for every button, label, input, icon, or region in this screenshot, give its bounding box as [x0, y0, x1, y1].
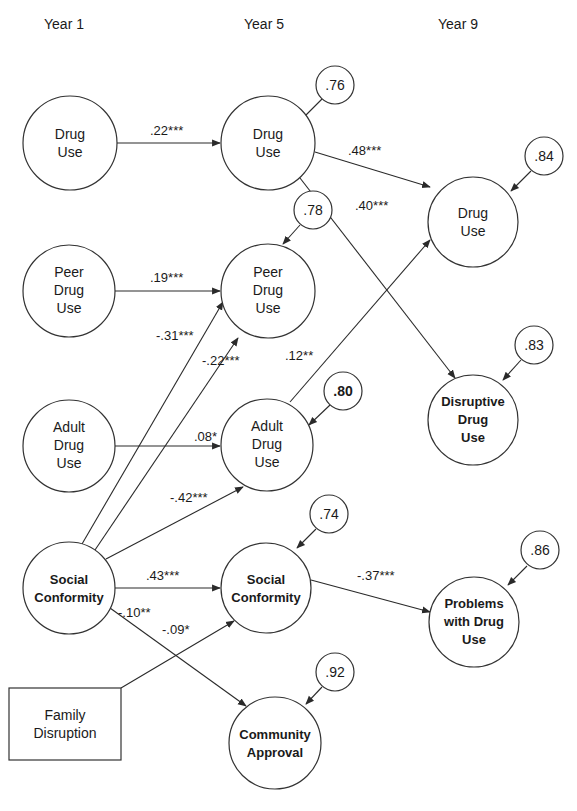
error-value: .83 [524, 337, 544, 353]
edge-y5sc-y9problems [311, 580, 430, 612]
error-arrow-y5peer [283, 225, 300, 244]
coef-y1sc-y5peer: -.31*** [156, 328, 194, 343]
node-label-line: Use [256, 300, 281, 316]
node-y9-problems-with-drug-use: Problems with Drug Use [429, 577, 519, 667]
node-label-line: Drug [252, 436, 282, 452]
header-year-1: Year 1 [44, 16, 84, 32]
coef-y1sc-community: -.10** [118, 605, 151, 620]
error-value: .74 [319, 506, 339, 522]
coef-y5drug-y9drug: .48*** [348, 143, 381, 158]
node-label-line: Conformity [231, 590, 301, 605]
node-label-line: Adult [53, 419, 85, 435]
error-y5-peer-drug-use: .78 [294, 191, 332, 229]
node-label-line: Use [255, 454, 280, 470]
node-label-line: Conformity [34, 590, 104, 605]
node-label-line: Drug [54, 437, 84, 453]
header-year-9: Year 9 [438, 16, 478, 32]
node-label-line: Family [44, 707, 85, 723]
coef-y1sc-y5sc: .43*** [146, 568, 179, 583]
node-label-line: Drug [253, 126, 283, 142]
node-label-line: Use [57, 455, 82, 471]
node-label-line: Use [461, 430, 485, 445]
edge-y5adult-y9drug [290, 240, 430, 402]
header-year-5: Year 5 [244, 16, 284, 32]
node-label-line: Use [256, 144, 281, 160]
coef-y1peer-y5peer: .19*** [150, 270, 183, 285]
node-label-line: Disruption [33, 725, 96, 741]
node-label-line: Social [50, 572, 88, 587]
node-y5-social-conformity: Social Conformity [221, 543, 311, 633]
error-y5-social-conformity: .74 [310, 495, 348, 533]
node-label-line: Drug [458, 412, 488, 427]
error-arrow-y9drug [511, 171, 531, 191]
error-arrow-y5adult [309, 405, 330, 425]
error-value: .84 [534, 148, 554, 164]
node-y5-drug-use: Drug Use [221, 96, 315, 190]
error-value: .86 [530, 542, 550, 558]
node-label-line: Adult [251, 418, 283, 434]
node-label-line: Use [462, 632, 486, 647]
node-label-line: Community [239, 727, 311, 742]
coef-y1drug-y5drug: .22*** [150, 123, 183, 138]
error-y5-drug-use: .76 [316, 66, 354, 104]
error-arrow-y5sc [297, 529, 316, 548]
node-label-line: Social [247, 572, 285, 587]
node-family-disruption: Family Disruption [9, 688, 121, 760]
node-y1-peer-drug-use: Peer Drug Use [23, 245, 115, 337]
node-label-line: Problems [444, 596, 503, 611]
edge-y1sc-y5peer-b [95, 338, 238, 550]
coef-y5adult-y9drug: .12** [285, 348, 313, 363]
coef-y1adult-y5adult: .08* [194, 429, 217, 444]
error-y9-disruptive-drug-use: .83 [515, 326, 553, 364]
path-diagram: Year 1 Year 5 Year 9 .22*** .19*** -.31*… [0, 0, 577, 811]
error-value: .76 [325, 77, 345, 93]
node-label-line: Disruptive [441, 394, 505, 409]
error-arrow-y9disruptive [503, 360, 521, 380]
node-y5-community-approval: Community Approval [229, 697, 321, 789]
node-y1-social-conformity: Social Conformity [23, 542, 115, 634]
node-y1-adult-drug-use: Adult Drug Use [23, 400, 115, 492]
node-label-line: Approval [247, 745, 303, 760]
node-label-line: Drug [253, 282, 283, 298]
node-label-line: Drug [55, 126, 85, 142]
coef-family-y5sc: -.09* [162, 622, 189, 637]
node-label-line: Use [461, 223, 486, 239]
coef-y5sc-y9problems: -.37*** [357, 568, 395, 583]
error-y5-adult-drug-use: .80 [324, 372, 362, 410]
error-arrow-y5community [306, 687, 322, 704]
node-y9-disruptive-drug-use: Disruptive Drug Use [428, 375, 518, 465]
coef-y5drug-y9disruptive: .40*** [355, 198, 388, 213]
node-label-line: with Drug [443, 614, 504, 629]
error-y9-problems-with-drug-use: .86 [521, 531, 559, 569]
error-value: .92 [325, 664, 345, 680]
node-y5-adult-drug-use: Adult Drug Use [221, 399, 313, 491]
node-label-line: Drug [458, 205, 488, 221]
error-value: .80 [333, 383, 353, 399]
node-label-line: Peer [253, 264, 283, 280]
coef-y1sc-y5adult: -.42*** [170, 490, 208, 505]
coef-y1sc-y5peer-b: -.22*** [202, 353, 240, 368]
node-y5-peer-drug-use: Peer Drug Use [221, 244, 315, 338]
node-label-line: Use [58, 144, 83, 160]
error-value: .78 [303, 202, 323, 218]
node-y1-drug-use: Drug Use [23, 96, 117, 190]
error-y5-community-approval: .92 [316, 653, 354, 691]
error-arrow-y9problems [508, 566, 527, 585]
node-label-line: Drug [54, 282, 84, 298]
node-y9-drug-use: Drug Use [428, 177, 518, 267]
node-label-line: Use [57, 300, 82, 316]
error-y9-drug-use: .84 [525, 137, 563, 175]
node-label-line: Peer [54, 264, 84, 280]
